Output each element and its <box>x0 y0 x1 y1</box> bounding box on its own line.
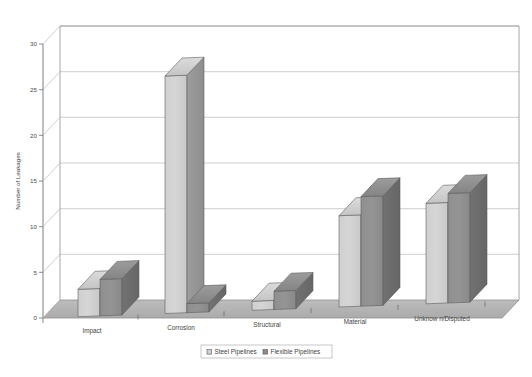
legend-label-flexible-pipelines: Flexible Pipelines <box>271 348 321 356</box>
y-tick-label-10: 10 <box>30 223 37 230</box>
x-tick-label-unknown-disputed: Unknow n/Disputed <box>414 315 470 323</box>
bar-chart-3d: 0 5 10 15 20 25 30 Number of Leakages <box>0 0 532 377</box>
x-tick-label-material: Material <box>344 318 367 325</box>
legend-swatch-flexible-pipelines <box>263 350 268 355</box>
bar-corrosion-steel[interactable] <box>165 57 204 313</box>
legend-swatch-steel-pipelines <box>207 350 212 355</box>
y-tick-label-25: 25 <box>30 86 37 93</box>
y-tick-label-5: 5 <box>34 269 38 276</box>
chart-container: 0 5 10 15 20 25 30 Number of Leakages <box>0 0 532 377</box>
bar-material-flexible[interactable] <box>361 178 400 306</box>
bar-group-unknown-disputed <box>426 175 487 304</box>
bar-unknown-flexible[interactable] <box>448 175 487 303</box>
y-axis-title: Number of Leakages <box>14 152 21 209</box>
x-tick-label-corrosion: Corrosion <box>167 324 195 331</box>
x-tick-label-impact: Impact <box>82 327 101 335</box>
y-tick-label-0: 0 <box>34 314 38 321</box>
y-tick-label-15: 15 <box>30 177 37 184</box>
legend-label-steel-pipelines: Steel Pipelines <box>215 348 257 356</box>
x-tick-label-structural: Structural <box>253 321 280 328</box>
y-tick-label-20: 20 <box>30 132 37 139</box>
chart-legend: Steel Pipelines Flexible Pipelines <box>201 345 332 358</box>
y-tick-label-30: 30 <box>30 40 37 47</box>
